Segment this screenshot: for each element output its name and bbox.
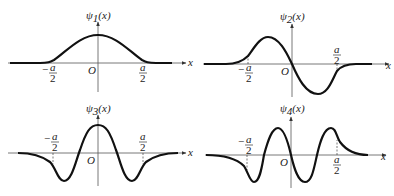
- neg-half-a-label: − a 2: [42, 61, 57, 84]
- svg-text:2: 2: [334, 164, 340, 176]
- svg-text:2: 2: [246, 144, 252, 156]
- origin-label: O: [281, 65, 289, 77]
- neg-half-a-label: − a 2: [238, 133, 253, 156]
- origin-label: O: [87, 154, 95, 166]
- origin-label: O: [280, 156, 288, 168]
- psi1-curve: [10, 35, 172, 63]
- origin-label: O: [88, 64, 96, 76]
- pos-half-a-label: a 2: [333, 153, 341, 176]
- y-axis-label: ψ3(x): [86, 102, 111, 117]
- x-axis-label: x: [385, 59, 391, 71]
- svg-text:2: 2: [246, 72, 252, 84]
- svg-text:−: −: [238, 135, 244, 147]
- x-axis-label: x: [380, 150, 386, 162]
- svg-text:2: 2: [334, 54, 340, 66]
- y-axis-label: ψ4(x): [280, 102, 305, 117]
- y-axis-label: ψ2(x): [280, 10, 305, 25]
- panel-psi3: ψ3(x) x O − a 2 a 2: [8, 102, 193, 186]
- svg-text:2: 2: [52, 141, 58, 153]
- svg-text:2: 2: [140, 141, 146, 153]
- svg-text:−: −: [238, 63, 244, 75]
- x-axis-label: x: [187, 56, 193, 68]
- y-axis-label: ψ1(x): [86, 9, 111, 24]
- svg-text:−: −: [44, 132, 50, 144]
- neg-half-a-label: − a 2: [238, 61, 253, 84]
- pos-half-a-label: a 2: [139, 61, 147, 84]
- panel-psi1: ψ1(x) x O − a 2 a 2: [8, 9, 193, 92]
- pos-half-a-label: a 2: [139, 130, 147, 153]
- panel-psi4: ψ4(x) x O − a 2 a 2: [205, 102, 386, 188]
- neg-half-a-label: − a 2: [44, 130, 59, 153]
- svg-text:−: −: [42, 63, 48, 75]
- svg-text:2: 2: [140, 72, 146, 84]
- svg-text:2: 2: [50, 72, 56, 84]
- pos-half-a-label: a 2: [333, 43, 341, 66]
- panel-psi2: ψ2(x) x O − a 2 a 2: [203, 10, 391, 97]
- wavefunction-figure: ψ1(x) x O − a 2 a 2 ψ2(x) x O − a 2: [0, 0, 394, 196]
- x-axis-label: x: [187, 146, 193, 158]
